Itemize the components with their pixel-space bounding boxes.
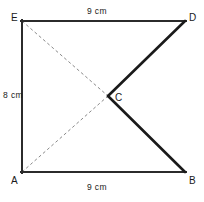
dimension-label-bottom: 9 cm <box>87 183 107 192</box>
vertex-label-e: E <box>11 13 18 23</box>
dimension-label-left: 8 cm <box>3 91 23 100</box>
diagonal-ac-dashed <box>22 96 108 172</box>
vertex-label-d: D <box>189 13 196 23</box>
geometry-figure: E D C B A 9 cm 9 cm 8 cm <box>0 0 204 202</box>
diagonal-ec-dashed <box>22 21 108 96</box>
vertex-label-c: C <box>115 93 122 103</box>
vertex-label-b: B <box>189 176 196 186</box>
dimension-label-top: 9 cm <box>87 7 107 16</box>
figure-canvas <box>0 0 204 202</box>
edge-cb-notch <box>108 96 185 172</box>
edge-dc-notch <box>108 21 185 96</box>
vertex-label-a: A <box>11 176 18 186</box>
